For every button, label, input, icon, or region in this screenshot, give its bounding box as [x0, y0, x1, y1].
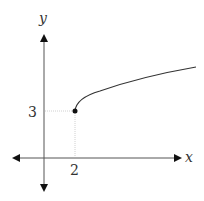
start-point-dot	[73, 109, 78, 114]
y-axis-label: y	[38, 10, 48, 26]
x-tick-label: 2	[70, 162, 79, 178]
function-curve	[75, 67, 196, 111]
x-axis-label: x	[185, 149, 193, 165]
y-tick-label: 3	[28, 104, 37, 120]
chart: y x 3 2	[0, 0, 204, 201]
